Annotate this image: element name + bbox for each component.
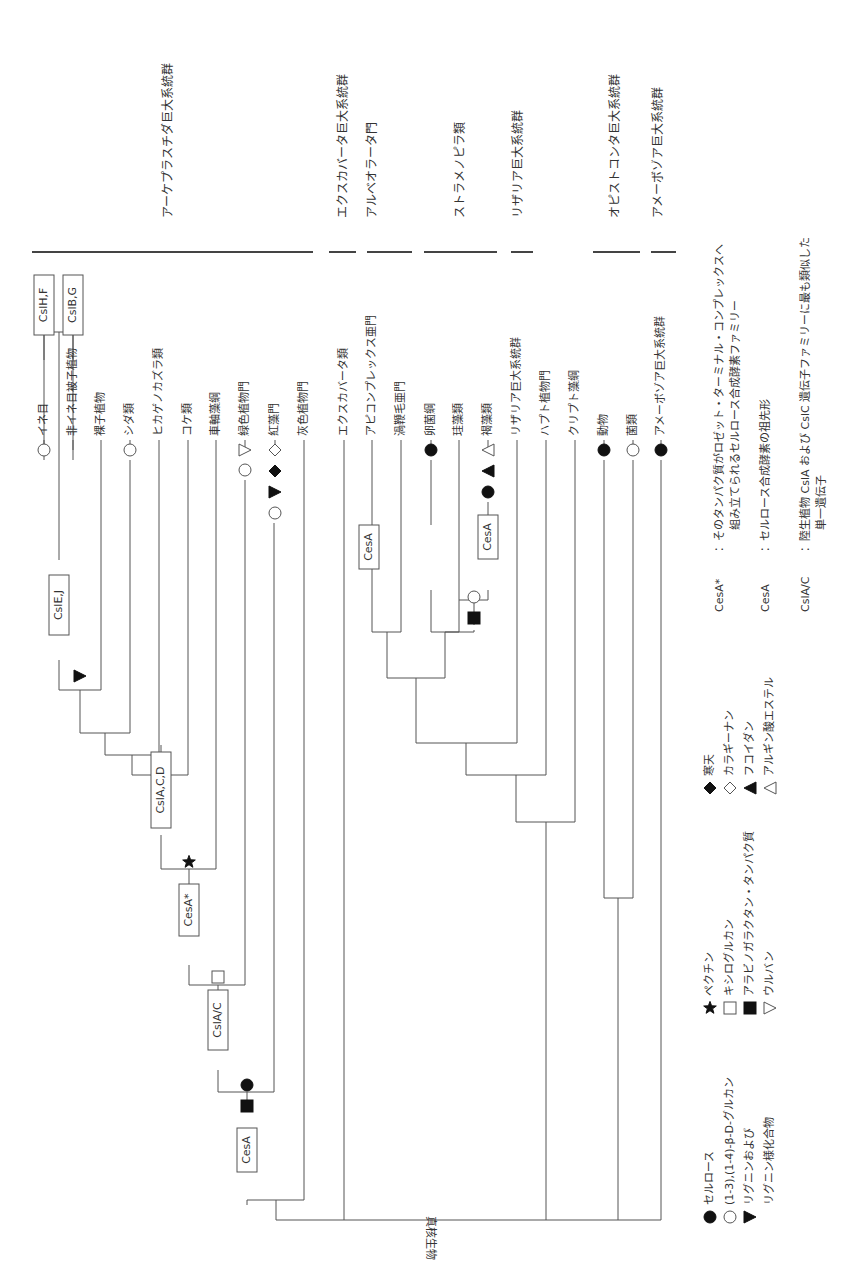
leaf-label: ヒカゲノカズラ類 <box>151 348 165 436</box>
leaf-label: 渦鞭毛亜門 <box>393 381 407 436</box>
triangle-up-filled-icon <box>744 782 756 794</box>
definition-text: ：陸生植物 CslA および CslC 遺伝子ファミリーに最も類似した <box>798 237 812 552</box>
branch <box>132 450 188 775</box>
leaf-label: 珪藻類 <box>451 403 465 436</box>
diamond-open-icon <box>724 782 736 794</box>
gene-box: CslH,F <box>34 275 54 335</box>
gene-box: CslE,J <box>49 575 69 635</box>
definition-text-cont: 組み立てられるセルロース合成酵素ファミリー <box>728 300 742 530</box>
branch <box>604 460 633 898</box>
legend-label: カラギーナン <box>723 710 736 776</box>
branch <box>276 1200 641 1220</box>
leaf-label: 卵菌綱 <box>423 403 437 436</box>
supergroup-label: リザリア巨大系統群 <box>511 110 525 218</box>
diamond-open-icon <box>269 444 281 456</box>
gene-box: CslA,C,D <box>151 752 171 828</box>
gene-box-label: CslA/C <box>211 1002 224 1038</box>
branch <box>105 450 159 755</box>
circle-open-icon <box>38 444 50 456</box>
circle-open-icon <box>239 464 251 476</box>
root-label: 真核生物 <box>424 1216 438 1260</box>
gene-box-label: CslA,C,D <box>154 766 167 813</box>
supergroup-label: アルベオラータ門 <box>365 122 379 218</box>
legend-label: セルロース <box>703 1151 716 1205</box>
square-filled-icon <box>744 1002 756 1014</box>
gene-box: CesA <box>478 515 498 559</box>
circle-filled-icon <box>482 486 494 498</box>
circle-open-icon <box>724 1211 736 1223</box>
definition-term: CesA <box>759 584 772 612</box>
leaf-label: アメーボゾア巨大系統群 <box>653 316 667 436</box>
leaf-label: 動物 <box>596 414 610 436</box>
supergroup-label: オピストコンタ巨大系統群 <box>608 74 622 218</box>
definition-term: CslA/C <box>799 576 812 612</box>
definition-text: ：セルロース合成酵素の祖先形 <box>758 399 772 552</box>
legend-label: リグニン様化合物 <box>762 1117 776 1205</box>
triangle-right-filled-icon <box>269 486 281 498</box>
circle-filled-icon <box>241 1079 253 1091</box>
legend-label: (1-3),(1-4)-β-D-グルカン <box>722 1077 736 1205</box>
leaf-label: イネ目 <box>37 403 50 436</box>
gene-box: CslB,G <box>63 275 83 335</box>
gene-box: CesA <box>359 525 379 569</box>
phylogeny-diagram: アーケプラスチダ巨大系統群エクスカバータ巨大系統群アルベオラータ門ストラメノピラ… <box>0 0 846 1280</box>
legend: セルロース(1-3),(1-4)-β-D-グルカンリグニンおよびリグニン様化合物… <box>702 237 828 1223</box>
triangle-down-open-icon <box>764 1002 776 1014</box>
leaf-label: 菌類 <box>626 414 639 436</box>
triangle-up-open-icon <box>764 782 776 794</box>
star-filled-icon <box>183 855 196 867</box>
gene-box-label: CslE,J <box>52 590 65 620</box>
supergroup-headers: アーケプラスチダ巨大系統群エクスカバータ巨大系統群アルベオラータ門ストラメノピラ… <box>32 63 676 252</box>
gene-box: CslA/C <box>208 990 228 1050</box>
leaf-label: シダ類 <box>122 403 136 436</box>
legend-label: リグニンおよび <box>742 1128 756 1205</box>
leaf-label: リザリア巨大系統群 <box>509 337 523 436</box>
leaf-label: 緑色植物門 <box>237 381 251 436</box>
circle-filled-icon <box>704 1211 716 1223</box>
gene-box-label: CesA <box>481 523 494 551</box>
branch <box>59 450 101 690</box>
circle-open-icon <box>627 444 639 456</box>
supergroup-label: アーケプラスチダ巨大系統群 <box>160 63 175 218</box>
gene-box: CesA <box>237 1128 257 1172</box>
leaf-labels: イネ目非イネ目被子植物裸子植物シダ類ヒカゲノカズラ類コケ類車軸藻綱緑色植物門紅藻… <box>37 315 667 450</box>
legend-label: アラビノガラクタン・タンパク質 <box>742 831 756 996</box>
supergroup-label: ストラメノピラ類 <box>453 122 467 218</box>
gene-box-label: CesA <box>240 1136 253 1164</box>
square-open-icon <box>724 1002 736 1014</box>
leaf-label: 裸子植物 <box>93 392 107 436</box>
branch <box>80 460 130 733</box>
diamond-filled-icon <box>269 465 281 477</box>
leaf-label: 非イネ目被子植物 <box>65 348 79 436</box>
legend-label: キシログルカン <box>722 919 736 996</box>
gene-box-label: CslB,G <box>66 287 79 323</box>
tree-branches <box>44 305 661 1220</box>
gene-box-label: CslH,F <box>37 288 50 323</box>
definition-text: ：そのタンパク質がロゼット・ターミナル・コンプレックスへ <box>712 244 726 552</box>
square-filled-icon <box>241 1100 253 1112</box>
gene-box: CesA* <box>179 884 199 936</box>
supergroup-label: エクスカバータ巨大系統群 <box>336 74 350 218</box>
branch <box>641 460 661 1220</box>
leaf-label: クリプト藻綱 <box>567 370 581 436</box>
circle-filled-icon <box>425 444 437 456</box>
leaf-label: コケ類 <box>181 403 194 436</box>
circle-open-icon <box>124 444 136 456</box>
legend-label: ウルバン <box>763 951 776 996</box>
definition-term: CesA* <box>713 578 726 612</box>
leaf-label: 褐藻類 <box>480 403 494 436</box>
circle-filled-icon <box>655 444 667 456</box>
root-label-group: 真核生物 <box>424 1216 438 1260</box>
triangle-right-filled-icon <box>74 670 86 682</box>
gene-box-label: CesA <box>362 533 375 561</box>
leaf-label: ハプト植物門 <box>538 370 552 436</box>
star-filled-icon <box>704 1001 717 1013</box>
supergroup-label: アメーボゾア巨大系統群 <box>651 87 665 218</box>
circle-open-icon <box>269 507 281 519</box>
leaf-label: 車軸藻綱 <box>208 392 222 436</box>
legend-label: ペクチン <box>703 952 716 996</box>
gene-box-label: CesA* <box>182 893 195 927</box>
circle-filled-icon <box>598 444 610 456</box>
triangle-up-filled-icon <box>482 465 494 477</box>
trait-markers <box>38 444 667 1112</box>
